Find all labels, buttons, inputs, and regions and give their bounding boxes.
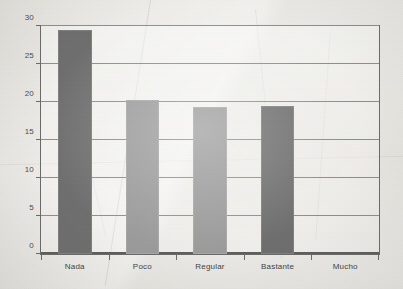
bar-regular xyxy=(193,107,227,254)
x-axis-tick xyxy=(41,254,42,260)
y-axis-tick-label: 10 xyxy=(25,165,34,174)
x-axis-tick xyxy=(109,254,110,260)
y-axis-tick xyxy=(36,63,41,64)
x-axis-label-poco: Poco xyxy=(133,262,152,271)
y-axis-tick-label: 0 xyxy=(29,241,34,250)
plot-area: 051015202530NadaPocoRegularBastanteMucho xyxy=(40,25,380,255)
x-axis-tick xyxy=(176,254,177,260)
y-axis-tick xyxy=(36,215,41,216)
y-axis-tick xyxy=(36,177,41,178)
y-axis-tick-label: 25 xyxy=(25,51,34,60)
x-axis-tick xyxy=(311,254,312,260)
x-axis-tick xyxy=(378,254,379,260)
x-axis-tick xyxy=(244,254,245,260)
bar-poco xyxy=(126,100,160,254)
x-axis-label-mucho: Mucho xyxy=(333,262,358,271)
y-axis-tick-label: 20 xyxy=(25,89,34,98)
y-axis-tick xyxy=(36,139,41,140)
y-axis-tick-label: 30 xyxy=(25,13,34,22)
bar-chart-figure: 051015202530NadaPocoRegularBastanteMucho xyxy=(0,0,403,289)
gridline xyxy=(41,101,379,102)
y-axis-tick xyxy=(36,101,41,102)
bar-nada xyxy=(58,30,92,254)
y-axis-tick-label: 5 xyxy=(29,203,34,212)
x-axis-label-nada: Nada xyxy=(65,262,85,271)
gridline xyxy=(41,63,379,64)
x-axis-label-bastante: Bastante xyxy=(261,262,294,271)
y-axis-tick-label: 15 xyxy=(25,127,34,136)
bar-bastante xyxy=(261,106,295,254)
gridline xyxy=(41,25,379,26)
y-axis-tick xyxy=(36,25,41,26)
x-axis-label-regular: Regular xyxy=(195,262,224,271)
